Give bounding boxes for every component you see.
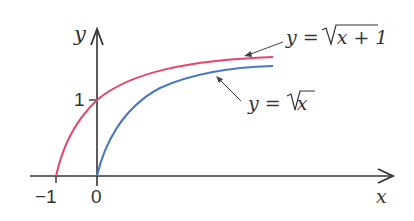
annotation-arrowhead-red-icon: [244, 51, 252, 57]
annotation-blue-eq: =: [265, 92, 281, 114]
y-axis-label: y: [74, 22, 86, 46]
annotation-sqrt-x-plus-1: y = x + 1: [286, 26, 388, 48]
annotation-blue-y: y: [248, 92, 259, 114]
annotation-red-eq: =: [303, 26, 319, 48]
chart: y x −1 0 1 y = x + 1 y = x: [0, 0, 414, 221]
tick-label-neg1: −1: [35, 186, 57, 208]
annotation-line-red: [248, 42, 283, 55]
annotation-red-radicand: x + 1: [337, 26, 388, 48]
tick-label-0: 0: [91, 186, 102, 208]
annotation-line-blue: [219, 79, 241, 101]
tick-label-1: 1: [74, 89, 85, 111]
x-axis-label: x: [376, 185, 387, 207]
curve-sqrt-x-plus-1: [56, 57, 273, 176]
annotation-sqrt-x: y = x: [248, 92, 307, 114]
annotation-red-y: y: [286, 26, 297, 48]
annotation-blue-radicand: x: [297, 92, 308, 114]
